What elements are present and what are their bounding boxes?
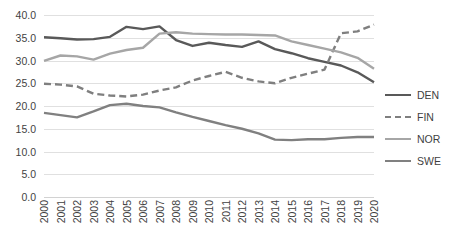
x-axis-tick-label: 2012 (236, 200, 248, 223)
legend-item-swe[interactable]: SWE (385, 150, 449, 172)
x-axis-tick-label: 2002 (71, 200, 83, 223)
x-axis-tick-label: 2015 (286, 200, 298, 223)
x-axis-tick-label: 2014 (269, 200, 281, 223)
legend-swatch-icon (385, 160, 411, 162)
x-axis-tick-label: 2003 (88, 200, 100, 223)
x-axis-tick-label: 2000 (38, 200, 50, 223)
x-axis-tick-label: 2004 (104, 200, 116, 223)
legend-item-label: NOR (417, 134, 440, 145)
x-axis-labels: 2000200120022003200420052006200720082009… (44, 198, 374, 243)
x-axis-tick-label: 2013 (253, 200, 265, 223)
x-axis-tick-label: 2008 (170, 200, 182, 223)
y-axis-tick-label: 25.0 (16, 77, 36, 89)
legend-item-label: FIN (417, 112, 434, 123)
x-axis-tick-label: 2020 (368, 200, 380, 223)
legend-swatch-icon (385, 94, 411, 96)
series-layer (44, 15, 374, 197)
series-line-swe (44, 104, 374, 140)
x-axis-tick-label: 2018 (335, 200, 347, 223)
line-chart: 0.05.010.015.020.025.030.035.040.0 20002… (0, 0, 449, 243)
y-axis-tick-label: 20.0 (16, 100, 36, 112)
chart-legend: DENFINNORSWE (385, 84, 449, 172)
y-axis-tick-label: 30.0 (16, 55, 36, 67)
legend-item-fin[interactable]: FIN (385, 106, 449, 128)
y-axis-tick-label: 15.0 (16, 123, 36, 135)
y-axis-tick-label: 5.0 (21, 168, 36, 180)
x-axis-tick-label: 2005 (121, 200, 133, 223)
legend-item-den[interactable]: DEN (385, 84, 449, 106)
x-axis-tick-label: 2001 (55, 200, 67, 223)
legend-item-label: DEN (417, 90, 439, 101)
x-axis-tick-label: 2006 (137, 200, 149, 223)
y-axis-tick-label: 10.0 (16, 146, 36, 158)
x-axis-tick-label: 2010 (203, 200, 215, 223)
x-axis-tick-label: 2017 (319, 200, 331, 223)
x-axis-tick-label: 2011 (220, 200, 232, 223)
legend-item-nor[interactable]: NOR (385, 128, 449, 150)
legend-item-label: SWE (417, 156, 441, 167)
y-axis-labels: 0.05.010.015.020.025.030.035.040.0 (0, 0, 40, 243)
y-axis-tick-label: 35.0 (16, 32, 36, 44)
y-axis-tick-label: 40.0 (16, 9, 36, 21)
x-axis-tick-label: 2007 (154, 200, 166, 223)
x-axis-tick-label: 2009 (187, 200, 199, 223)
x-axis-tick-label: 2019 (352, 200, 364, 223)
x-axis-tick-label: 2016 (302, 200, 314, 223)
y-axis-tick-label: 0.0 (21, 191, 36, 203)
series-line-nor (44, 32, 374, 68)
legend-swatch-icon (385, 116, 411, 118)
legend-swatch-icon (385, 138, 411, 140)
